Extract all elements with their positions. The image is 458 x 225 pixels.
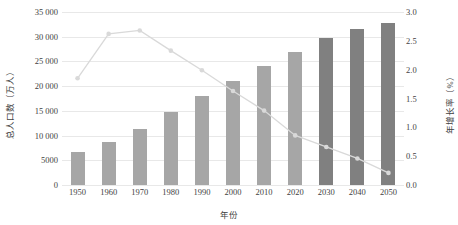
line-marker-2020: [293, 133, 298, 138]
line-marker-1980: [169, 48, 174, 53]
line-marker-2010: [262, 108, 267, 113]
line-marker-1970: [137, 28, 142, 33]
y-axis-left-tick-label: 15 000: [14, 107, 58, 116]
gridline: [62, 185, 404, 186]
x-axis-title: 年份: [0, 208, 458, 220]
y-axis-right-tick-label: 0.5: [406, 152, 417, 161]
y-axis-left-tick-label: 0: [14, 181, 58, 190]
y-axis-left-tick-label: 5000: [14, 156, 58, 165]
x-axis-ticks: 1950196019701980199020002010202020302040…: [62, 188, 404, 202]
line-marker-2000: [231, 89, 236, 94]
y-axis-right-tick-label: 1.5: [406, 95, 417, 104]
line-marker-1950: [75, 76, 80, 81]
line-marker-2050: [386, 171, 391, 176]
line-marker-1990: [200, 68, 205, 73]
growth-rate-line: [78, 30, 389, 172]
y-axis-left-tick-label: 35 000: [14, 8, 58, 17]
y-axis-left-tick-label: 30 000: [14, 33, 58, 42]
y-axis-right-tick-label: 1.0: [406, 123, 417, 132]
x-axis-tick-label: 2050: [368, 188, 408, 197]
y-axis-left-ticks: 0500010 00015 00020 00025 00030 00035 00…: [14, 0, 58, 225]
line-marker-1960: [106, 32, 111, 37]
y-axis-left-tick-label: 20 000: [14, 82, 58, 91]
y-axis-right-title: 年增长率（%）: [443, 43, 455, 163]
line-series: [62, 12, 404, 185]
y-axis-right-tick-label: 2.5: [406, 37, 417, 46]
line-marker-2030: [324, 145, 329, 150]
plot-area: [62, 12, 404, 185]
y-axis-left-tick-label: 25 000: [14, 57, 58, 66]
y-axis-right-tick-label: 2.0: [406, 66, 417, 75]
y-axis-left-tick-label: 10 000: [14, 132, 58, 141]
population-growth-chart: 总人口数（万人） 年增长率（%） 0500010 00015 00020 000…: [0, 0, 458, 225]
y-axis-right-ticks: 0.00.51.01.52.02.53.0: [406, 0, 438, 225]
line-marker-2040: [355, 156, 360, 161]
y-axis-right-tick-label: 3.0: [406, 8, 417, 17]
